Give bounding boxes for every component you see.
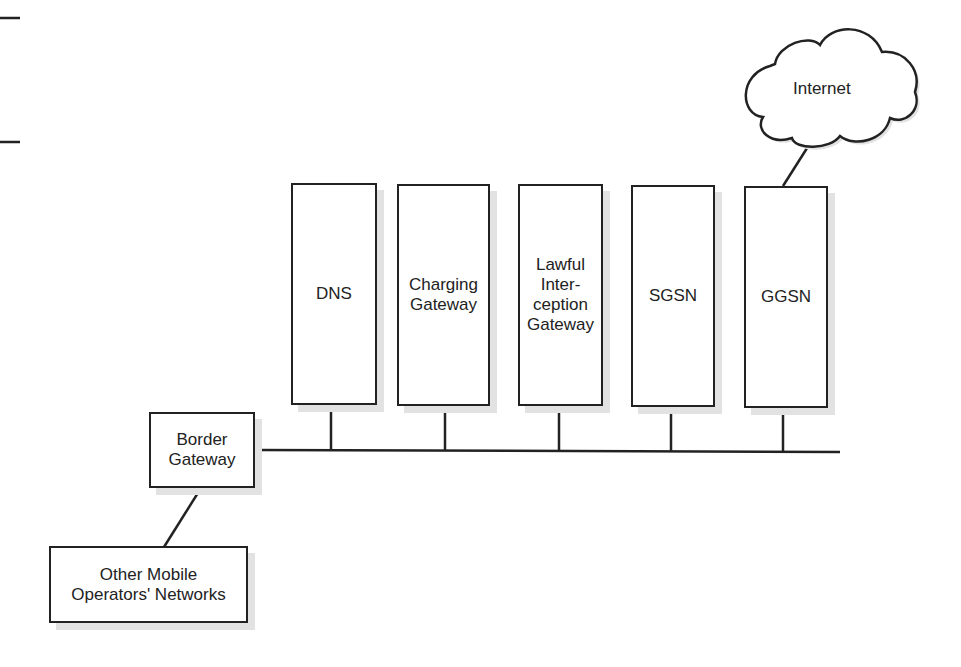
other-mobile-operators-node[interactable]: Other Mobile Operators' Networks <box>49 546 248 623</box>
lawful-interception-gateway-node[interactable]: Lawful Inter- ception Gateway <box>518 184 603 406</box>
ggsn-node[interactable]: GGSN <box>744 186 828 408</box>
internet-label: Internet <box>793 79 851 99</box>
border-gateway-node[interactable]: Border Gateway <box>149 412 255 488</box>
ggsn-label: GGSN <box>761 287 811 307</box>
ggsn-internet-link <box>783 145 809 186</box>
charging-gateway-node[interactable]: Charging Gateway <box>397 184 490 406</box>
border-gateway-label: Border Gateway <box>168 430 235 470</box>
backbone-bus <box>255 450 840 452</box>
dns-label: DNS <box>316 284 352 304</box>
dns-node[interactable]: DNS <box>291 183 377 405</box>
charging-gateway-label: Charging Gateway <box>409 275 478 315</box>
lawful-interception-gateway-label: Lawful Inter- ception Gateway <box>527 255 594 335</box>
sgsn-node[interactable]: SGSN <box>631 185 715 407</box>
border-other-link <box>164 488 201 547</box>
sgsn-label: SGSN <box>649 286 697 306</box>
other-mobile-operators-label: Other Mobile Operators' Networks <box>71 565 225 605</box>
